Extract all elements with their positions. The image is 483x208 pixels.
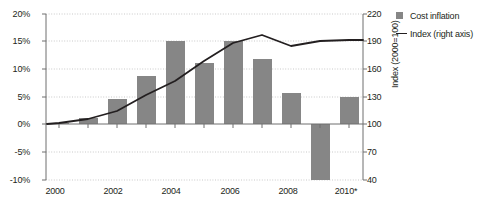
legend-line-swatch-icon: [396, 33, 407, 34]
bar: [340, 97, 359, 124]
chart-container: 20% 15% 10% 5% 0% -5% -10% 220 190 160 1…: [0, 0, 483, 208]
legend-square-swatch-icon: [396, 12, 403, 19]
bar: [282, 93, 301, 124]
legend-label: Index (right axis): [410, 29, 473, 39]
bar: [311, 124, 330, 180]
y-axis-right: [363, 14, 367, 180]
legend-item-index[interactable]: Index (right axis): [396, 26, 473, 41]
chart-legend: Cost inflation Index (right axis): [396, 8, 473, 44]
bar: [166, 41, 185, 124]
legend-label: Cost inflation: [410, 11, 459, 21]
y-axis-left: [42, 14, 46, 180]
bar-series-cost-inflation: [50, 41, 359, 180]
bar: [224, 41, 243, 124]
bar: [253, 59, 272, 124]
bar: [195, 63, 214, 124]
bar: [137, 76, 156, 124]
legend-item-cost-inflation[interactable]: Cost inflation: [396, 8, 473, 23]
